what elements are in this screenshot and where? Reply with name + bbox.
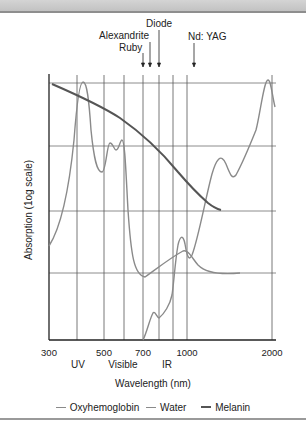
legend-label-water: Water <box>160 402 186 413</box>
legend-oxyhemoglobin: Oxyhemoglobin <box>56 402 139 413</box>
x-tick-700: 700 <box>135 347 151 358</box>
x-tick-2000: 2000 <box>261 347 282 358</box>
legend-water: Water <box>146 402 186 413</box>
bottom-divider <box>0 418 306 420</box>
label-alexandrite: Alexandrite <box>99 30 149 41</box>
x-axis-label: Wavelength (nm) <box>0 378 306 389</box>
legend: Oxyhemoglobin Water Melanin <box>0 399 306 413</box>
legend-swatch-melanin <box>201 406 211 408</box>
legend-swatch-oxyhemoglobin <box>56 407 66 408</box>
region-uv: UV <box>71 359 85 370</box>
legend-swatch-water <box>146 407 156 408</box>
region-visible: Visible <box>108 359 137 370</box>
oxyhemoglobin-curve <box>49 82 240 277</box>
label-ndyag: Nd: YAG <box>188 31 227 42</box>
x-tick-300: 300 <box>41 347 57 358</box>
horizontal-gridlines <box>49 83 276 273</box>
label-ruby: Ruby <box>119 42 142 53</box>
legend-label-melanin: Melanin <box>215 402 250 413</box>
label-diode: Diode <box>146 18 172 29</box>
legend-label-oxyhemoglobin: Oxyhemoglobin <box>70 402 139 413</box>
x-tick-500: 500 <box>96 347 112 358</box>
y-axis-label: Absorption (1og scale) <box>23 160 34 260</box>
x-tick-1000: 1000 <box>176 347 197 358</box>
water-curve <box>143 80 275 340</box>
legend-melanin: Melanin <box>201 402 250 413</box>
vertical-gridlines <box>77 75 272 340</box>
region-ir: IR <box>162 359 172 370</box>
absorption-chart <box>0 0 306 426</box>
axes <box>49 74 276 340</box>
